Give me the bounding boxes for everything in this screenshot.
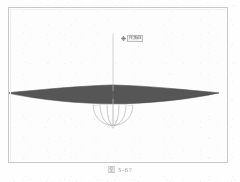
vertical-axis-line xyxy=(110,34,116,129)
lens-body xyxy=(9,85,219,104)
figure-screenshot: 尺寸标注 图 3-6? xyxy=(0,0,240,182)
3d-viewport[interactable] xyxy=(9,8,227,162)
figure-caption: 图 3-6? xyxy=(0,166,240,175)
figure-frame: 尺寸标注 xyxy=(8,7,228,163)
